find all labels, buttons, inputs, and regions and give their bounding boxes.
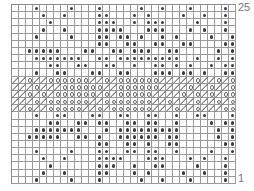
empty-cell: [89, 162, 96, 169]
empty-cell: [61, 148, 68, 155]
empty-cell: [138, 120, 145, 127]
empty-cell: [201, 141, 208, 148]
filled-dot-cell: [54, 55, 61, 62]
open-circle-cell: [131, 91, 138, 98]
empty-cell: [201, 127, 208, 134]
empty-cell: [117, 141, 124, 148]
empty-cell: [33, 19, 40, 26]
empty-cell: [201, 55, 208, 62]
empty-cell: [138, 162, 145, 169]
empty-cell: [75, 148, 82, 155]
empty-cell: [89, 5, 96, 12]
open-circle-cell: [96, 105, 103, 112]
filled-dot-cell: [103, 55, 110, 62]
empty-cell: [110, 12, 117, 19]
open-circle-cell: [54, 77, 61, 84]
empty-cell: [12, 148, 19, 155]
slash-cell: [159, 105, 166, 112]
empty-cell: [138, 69, 145, 76]
filled-dot-cell: [187, 41, 194, 48]
filled-dot-cell: [96, 148, 103, 155]
empty-cell: [208, 41, 215, 48]
filled-dot-cell: [54, 112, 61, 119]
filled-dot-cell: [96, 155, 103, 162]
slash-cell: [222, 77, 229, 84]
empty-cell: [159, 120, 166, 127]
empty-cell: [19, 41, 26, 48]
filled-dot-cell: [215, 55, 222, 62]
filled-dot-cell: [131, 19, 138, 26]
empty-cell: [75, 141, 82, 148]
empty-cell: [96, 127, 103, 134]
filled-dot-cell: [138, 127, 145, 134]
filled-dot-cell: [208, 62, 215, 69]
filled-dot-cell: [173, 62, 180, 69]
empty-cell: [40, 141, 47, 148]
empty-cell: [159, 141, 166, 148]
empty-cell: [117, 12, 124, 19]
slash-cell: [40, 105, 47, 112]
empty-cell: [19, 34, 26, 41]
empty-cell: [75, 112, 82, 119]
empty-cell: [215, 162, 222, 169]
open-circle-cell: [75, 84, 82, 91]
open-circle-cell: [54, 105, 61, 112]
empty-cell: [82, 170, 89, 177]
empty-cell: [19, 120, 26, 127]
empty-cell: [54, 155, 61, 162]
empty-cell: [215, 41, 222, 48]
slash-cell: [47, 91, 54, 98]
empty-cell: [180, 19, 187, 26]
empty-cell: [33, 62, 40, 69]
empty-cell: [117, 19, 124, 26]
empty-cell: [222, 148, 229, 155]
empty-cell: [208, 12, 215, 19]
filled-dot-cell: [173, 148, 180, 155]
empty-cell: [138, 112, 145, 119]
filled-dot-cell: [40, 12, 47, 19]
empty-cell: [33, 26, 40, 33]
empty-cell: [208, 5, 215, 12]
empty-cell: [187, 162, 194, 169]
open-circle-cell: [138, 98, 145, 105]
empty-cell: [208, 112, 215, 119]
filled-dot-cell: [33, 112, 40, 119]
filled-dot-cell: [103, 141, 110, 148]
filled-dot-cell: [229, 41, 236, 48]
filled-dot-cell: [222, 41, 229, 48]
empty-cell: [201, 41, 208, 48]
filled-dot-cell: [68, 55, 75, 62]
filled-dot-cell: [124, 34, 131, 41]
empty-cell: [26, 41, 33, 48]
filled-dot-cell: [61, 55, 68, 62]
empty-cell: [208, 162, 215, 169]
filled-dot-cell: [33, 134, 40, 141]
filled-dot-cell: [152, 19, 159, 26]
filled-dot-cell: [47, 162, 54, 169]
empty-cell: [110, 41, 117, 48]
empty-cell: [89, 127, 96, 134]
filled-dot-cell: [159, 55, 166, 62]
empty-cell: [229, 155, 236, 162]
open-circle-cell: [68, 91, 75, 98]
empty-cell: [68, 41, 75, 48]
empty-cell: [40, 5, 47, 12]
filled-dot-cell: [138, 134, 145, 141]
empty-cell: [173, 155, 180, 162]
filled-dot-cell: [208, 120, 215, 127]
filled-dot-cell: [222, 62, 229, 69]
empty-cell: [12, 48, 19, 55]
empty-cell: [75, 12, 82, 19]
empty-cell: [138, 148, 145, 155]
empty-cell: [194, 155, 201, 162]
filled-dot-cell: [103, 120, 110, 127]
filled-dot-cell: [222, 177, 229, 184]
knitting-chart-grid: [11, 4, 236, 184]
empty-cell: [201, 120, 208, 127]
slash-cell: [40, 98, 47, 105]
filled-dot-cell: [180, 41, 187, 48]
empty-cell: [145, 162, 152, 169]
filled-dot-cell: [96, 41, 103, 48]
empty-cell: [89, 134, 96, 141]
empty-cell: [82, 141, 89, 148]
